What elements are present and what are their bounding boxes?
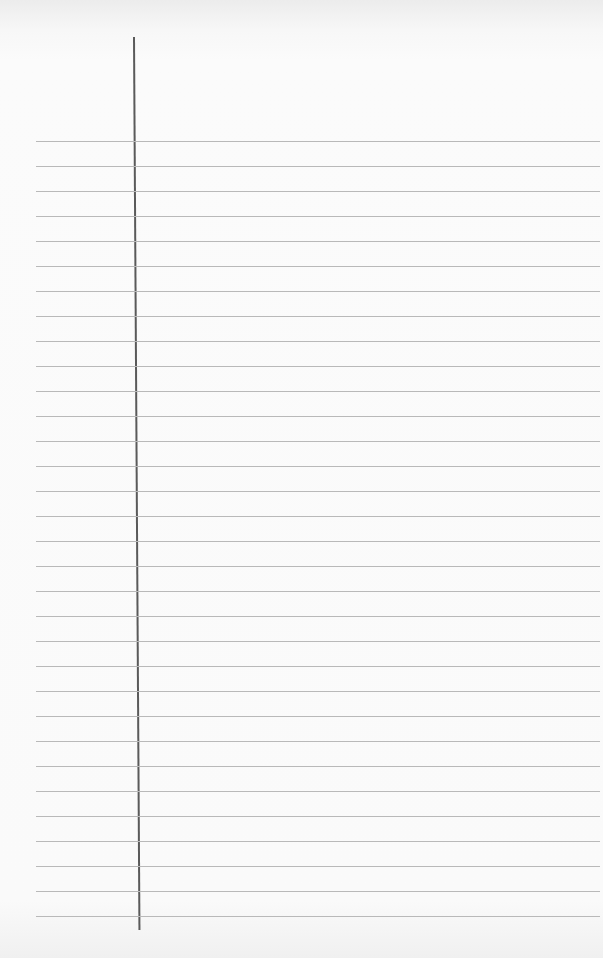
ruled-line <box>36 416 600 417</box>
ruled-line <box>36 166 600 167</box>
ruled-line <box>36 391 600 392</box>
ruled-line <box>36 541 600 542</box>
ruled-line <box>36 341 600 342</box>
ruled-line <box>36 691 600 692</box>
ruled-line <box>36 216 600 217</box>
ruled-line <box>36 641 600 642</box>
ruled-line <box>36 191 600 192</box>
ruled-line <box>36 666 600 667</box>
ruled-line <box>36 716 600 717</box>
ruled-line <box>36 916 600 917</box>
ruled-line <box>36 616 600 617</box>
ruled-line <box>36 866 600 867</box>
ruled-line <box>36 766 600 767</box>
margin-line <box>133 37 140 930</box>
ruled-line <box>36 441 600 442</box>
ruled-line <box>36 141 600 142</box>
ruled-line <box>36 816 600 817</box>
ruled-line <box>36 266 600 267</box>
ruled-line <box>36 591 600 592</box>
ruled-line <box>36 516 600 517</box>
lined-paper-sheet <box>0 0 603 958</box>
ruled-line <box>36 841 600 842</box>
ruled-line <box>36 791 600 792</box>
ruled-line <box>36 366 600 367</box>
ruled-line <box>36 316 600 317</box>
ruled-line <box>36 891 600 892</box>
ruled-line <box>36 291 600 292</box>
ruled-line <box>36 566 600 567</box>
ruled-line <box>36 491 600 492</box>
ruled-line <box>36 241 600 242</box>
ruled-line <box>36 466 600 467</box>
ruled-line <box>36 741 600 742</box>
